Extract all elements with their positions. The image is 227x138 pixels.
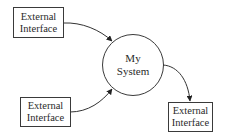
box-label-line2: Interface: [172, 117, 209, 129]
flow-arrow-system-to-ext3: [163, 65, 190, 101]
flow-arrow-ext1-to-system: [63, 23, 112, 41]
box-label-line2: Interface: [20, 23, 57, 35]
external-interface-box-1: External Interface: [13, 7, 64, 38]
box-label-line1: External: [21, 11, 57, 23]
external-interface-box-2: External Interface: [20, 97, 71, 127]
box-label-line1: External: [173, 105, 209, 117]
flow-arrow-ext2-to-system: [70, 89, 112, 112]
system-label: My System: [103, 45, 163, 85]
box-label-line1: External: [28, 100, 64, 112]
external-interface-box-3: External Interface: [168, 102, 213, 132]
system-label-line2: System: [117, 65, 149, 78]
system-label-line1: My: [125, 52, 140, 65]
box-label-line2: Interface: [27, 112, 64, 124]
